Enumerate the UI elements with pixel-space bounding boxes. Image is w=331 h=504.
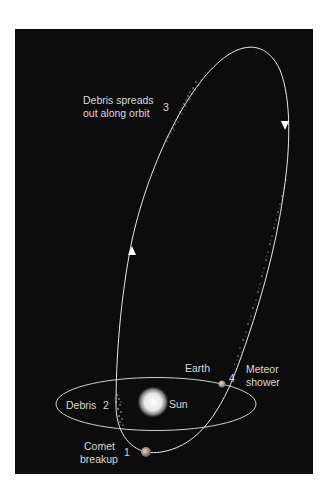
- step-3-number: 3: [163, 101, 169, 113]
- earth-label: Earth: [185, 362, 210, 374]
- comet-nucleus-icon: [141, 447, 151, 457]
- step-4-number: 4: [229, 372, 235, 384]
- orbit-diagram: [0, 0, 331, 504]
- comet-breakup-label-line1: Comet: [84, 440, 115, 452]
- earth-icon: [219, 381, 226, 388]
- arrow-icon: [128, 246, 136, 255]
- arrow-icon: [281, 121, 289, 130]
- debris-spreads-label-line1: Debris spreads: [83, 94, 154, 106]
- debris-cloud-upper: [167, 80, 202, 142]
- debris-cloud-right: [234, 179, 286, 364]
- meteor-shower-label-line1: Meteor: [246, 363, 279, 375]
- step-1-number: 1: [124, 446, 130, 458]
- debris-spreads-label-line2: out along orbit: [83, 107, 150, 119]
- meteor-shower-label-line2: shower: [246, 376, 280, 388]
- sun-label: Sun: [169, 398, 188, 410]
- debris-label: Debris: [66, 399, 96, 411]
- step-2-number: 2: [103, 399, 109, 411]
- sun-glow-icon: [137, 386, 169, 418]
- comet-breakup-label-line2: breakup: [80, 453, 118, 465]
